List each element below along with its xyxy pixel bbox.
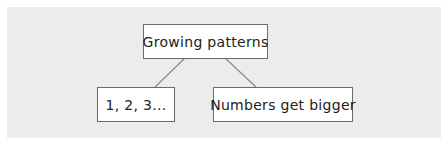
edge-root-to-right bbox=[225, 58, 256, 87]
child-node-left: 1, 2, 3... bbox=[97, 87, 175, 122]
edge-root-to-left bbox=[155, 58, 185, 87]
child-node-left-label: 1, 2, 3... bbox=[106, 97, 167, 113]
connector-lines bbox=[0, 0, 448, 144]
root-node: Growing patterns bbox=[143, 24, 268, 59]
root-node-label: Growing patterns bbox=[143, 34, 269, 50]
child-node-right-label: Numbers get bigger bbox=[210, 97, 356, 113]
child-node-right: Numbers get bigger bbox=[213, 87, 353, 122]
